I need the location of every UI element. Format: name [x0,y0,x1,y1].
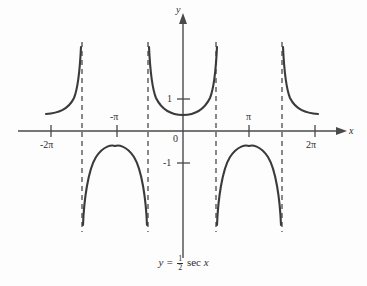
caption-function-name: sec [187,256,201,268]
y-tick-label-neg-one: -1 [163,158,171,168]
caption-fraction-denominator: 2 [177,263,183,272]
origin-label: 0 [173,134,178,144]
caption-prefix: y = [158,256,173,268]
asymptote-lines [82,42,282,232]
figure-container: x y 0 -2π -π π 2π 1 -1 y = 1 2 sec x y =… [0,0,367,286]
caption-fraction-one-half: 1 2 [177,255,183,273]
caption-fraction-numerator: 1 [177,255,183,263]
x-tick-label-neg-pi: -π [110,112,118,122]
caption-variable: x [204,256,209,268]
x-tick-label-2pi: 2π [306,140,316,150]
y-axis [179,13,187,258]
curve-branch-right-lower [217,146,281,225]
curve-branch-right-outer-upper [283,47,318,114]
figure-caption: y = 1 2 sec x [0,255,367,273]
curve-branch-left-lower [83,146,147,225]
curve-branch-left-outer-upper [46,47,81,114]
x-tick-label-pi: π [246,112,251,122]
x-axis-label: x [349,126,353,136]
y-axis-label: y [176,5,180,15]
x-tick-label-neg-2pi: -2π [40,140,53,150]
secant-curve [46,47,318,225]
y-tick-label-one: 1 [167,94,172,104]
